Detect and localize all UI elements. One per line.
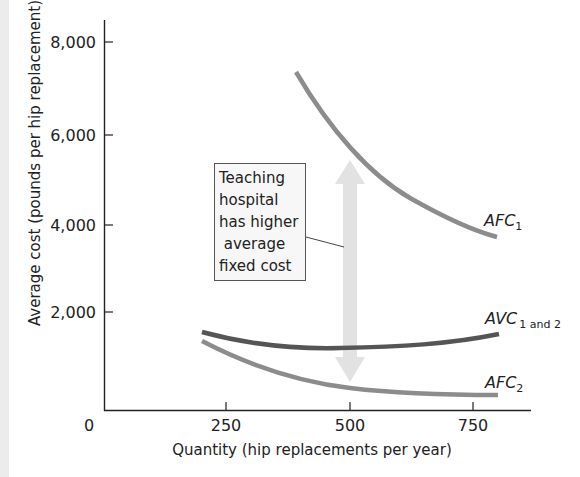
x-ticks: [226, 402, 473, 410]
afc2-label: AFC2: [484, 373, 523, 395]
annotation-line: has higher: [219, 211, 301, 233]
x-tick-label: 750: [458, 416, 489, 435]
x-axis-title: Quantity (hip replacements per year): [172, 441, 452, 459]
y-tick-label: 2,000: [50, 303, 96, 322]
annotation-line: hospital: [219, 189, 301, 211]
x-tick-label: 500: [335, 416, 366, 435]
origin-label: 0: [84, 416, 94, 435]
annotation-line: fixed cost: [219, 255, 301, 277]
annotation-leader-line: [306, 237, 344, 247]
x-tick-label: 250: [211, 416, 242, 435]
avc-label: AVC1 and 2: [484, 309, 561, 331]
x-tick-labels: 250 500 750: [211, 416, 489, 435]
y-tick-labels: 8,000 6,000 4,000 2,000: [50, 33, 96, 322]
afc1-curve: [296, 72, 497, 237]
y-ticks: [104, 42, 113, 312]
y-tick-label: 6,000: [50, 126, 96, 145]
annotation-box: Teaching hospital has higher average fix…: [214, 163, 306, 281]
annotation-line: average: [219, 233, 301, 255]
y-tick-label: 4,000: [50, 216, 96, 235]
y-tick-label: 8,000: [50, 33, 96, 52]
afc1-label: AFC1: [483, 211, 522, 233]
y-axis-title: Average cost (pounds per hip replacement…: [26, 0, 44, 326]
annotation-line: Teaching: [219, 167, 301, 189]
